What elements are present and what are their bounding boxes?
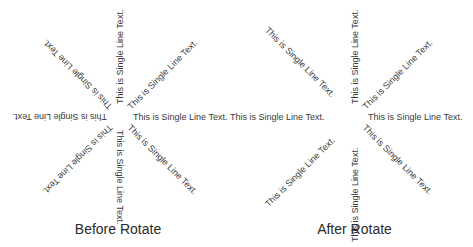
rotated-label: This is Single Line Text. — [125, 122, 200, 197]
before-rotate-caption: Before Rotate — [0, 221, 236, 237]
after-rotate-caption: After Rotate — [236, 221, 473, 237]
rotated-label: This is Single Line Text. — [360, 122, 435, 197]
rotated-label: This is Single Line Text. — [114, 10, 126, 104]
rotated-label: This is Single Line Text. — [125, 37, 200, 112]
rotated-label: This is Single Line Text. — [349, 10, 361, 104]
rotated-label: This is Single Line Text. — [230, 111, 342, 123]
rotated-label: This is Single Line Text. — [262, 122, 350, 210]
rotated-label: This is Single Line Text. — [360, 37, 435, 112]
rotated-label: This is Single Line Text. — [368, 111, 462, 123]
before-rotate-panel: This is Single Line Text. This is Single… — [0, 0, 236, 247]
rotated-label: This is Single Line Text. — [13, 111, 107, 123]
after-rotate-panel: This is Single Line Text. This is Single… — [236, 0, 473, 247]
rotated-label: This is Single Line Text. — [40, 122, 115, 197]
rotated-label: This is Single Line Text. — [114, 130, 126, 224]
rotated-label: This is Single Line Text. — [40, 37, 115, 112]
rotated-label: This is Single Line Text. — [133, 111, 227, 123]
rotated-label: This is Single Line Text. — [262, 24, 350, 112]
